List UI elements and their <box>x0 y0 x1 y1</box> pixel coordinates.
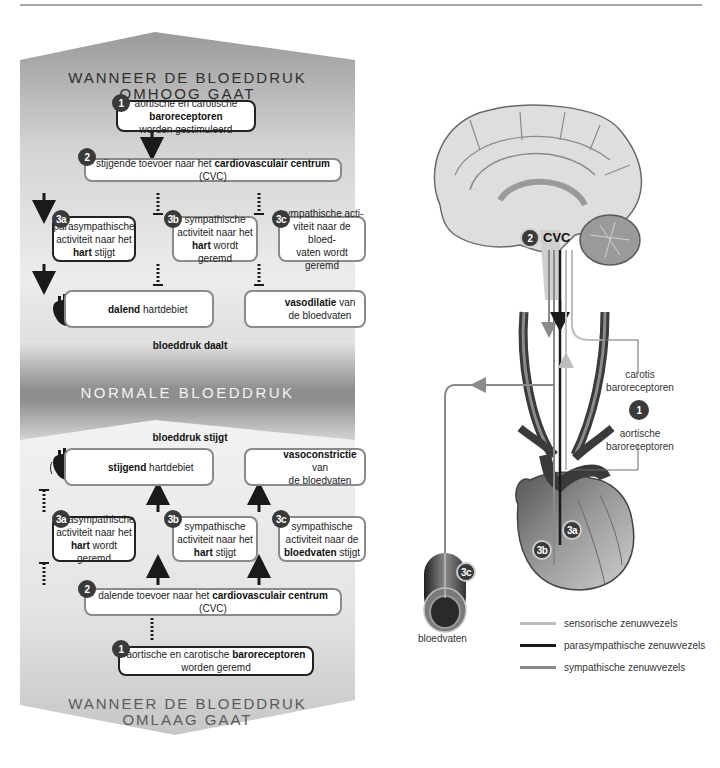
step3c-box-rises: sympathischeactiviteit naar debloedvaten… <box>278 516 366 562</box>
heading-normal: NORMALE BLOEDDRUK <box>20 385 355 401</box>
receptors-badge: 1 <box>629 400 649 420</box>
legend-swatch-sympathetic <box>520 666 556 669</box>
step-badge: 3c <box>272 210 290 228</box>
cvc-label: CVC <box>543 231 570 244</box>
legend-swatch-parasympathetic <box>520 644 556 647</box>
legend-swatch-sensory <box>520 622 556 625</box>
step-badge: 3b <box>164 510 182 528</box>
caption-pressure-rises: bloeddruk stijgt <box>140 432 240 443</box>
result-box-vasodilation: vasodilatie vande bloedvaten <box>244 290 366 328</box>
legend-sympathetic: sympathische zenuwvezels <box>520 662 685 673</box>
step-badge: 3a <box>52 510 70 528</box>
aortic-receptors-label: aortischebaroreceptoren <box>605 427 675 453</box>
step3b-box: sympathischeactiviteit naar hethart word… <box>172 216 258 262</box>
step-badge: 1 <box>112 94 130 112</box>
result-box-increased-output: stijgend hartdebiet <box>64 448 214 486</box>
carotid-receptors-label: carotisbaroreceptoren <box>605 368 675 394</box>
result-box-decreased-output: dalend hartdebiet <box>64 290 214 328</box>
step-badge: 3a <box>52 210 70 228</box>
legend-sensory: sensorische zenuwvezels <box>520 618 677 629</box>
step3c-box: sympathische acti-viteit naar de bloed-v… <box>278 216 366 262</box>
step2-box-increased: stijgende toevoer naar het cardiovascula… <box>84 158 342 182</box>
step-badge: 3c <box>272 510 290 528</box>
caption-pressure-drops: bloeddruk daalt <box>140 340 240 351</box>
heading-line: WANNEER DE BLOEDDRUK <box>20 696 355 712</box>
vessel-badge-3c: 3c <box>456 562 476 582</box>
brain-illustration <box>434 105 641 300</box>
cvc-badge: 2 <box>520 228 540 248</box>
step-badge: 2 <box>78 148 96 166</box>
heading-falling: WANNEER DE BLOEDDRUK OMLAAG GAAT <box>20 696 355 728</box>
heading-line: WANNEER DE BLOEDDRUK <box>20 70 355 86</box>
step2-box-decreased: dalende toevoer naar het cardiovasculair… <box>84 588 342 616</box>
result-box-vasoconstriction: vasoconstrictie vande bloedvaten <box>244 448 366 486</box>
step-badge: 1 <box>112 640 130 658</box>
step-badge: 3b <box>164 210 182 228</box>
heading-line: OMLAAG GAAT <box>20 712 355 728</box>
heart-badge-3a: 3a <box>562 520 582 540</box>
vessel-label: bloedvaten <box>418 632 467 645</box>
step1-box-stimulated: aortische en carotische baroreceptorenwo… <box>116 100 256 132</box>
step1-box-inhibited: aortische en carotische baroreceptorenwo… <box>118 646 314 676</box>
step3b-box-rises: sympathischeactiviteit naar hethart stij… <box>172 516 258 562</box>
step-badge: 2 <box>78 580 96 598</box>
legend-parasympathetic: parasympathische zenuwvezels <box>520 640 705 651</box>
heart-badge-3b: 3b <box>532 540 552 560</box>
